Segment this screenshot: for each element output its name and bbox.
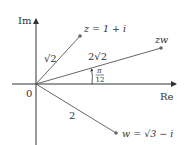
w-label: w = √3 − i bbox=[122, 128, 173, 139]
real-axis-label: Re bbox=[160, 91, 174, 102]
zw-modulus-label: 2√2 bbox=[88, 51, 107, 62]
origin-label: 0 bbox=[26, 88, 32, 99]
angle-denominator: 12 bbox=[96, 76, 105, 84]
zw-label: zw bbox=[154, 34, 168, 45]
angle-numerator: π bbox=[96, 67, 102, 75]
angle-arc-icon bbox=[92, 69, 93, 84]
point-z bbox=[78, 34, 82, 38]
w-modulus-label: 2 bbox=[69, 110, 75, 121]
point-zw bbox=[159, 46, 163, 50]
z-modulus-label: √2 bbox=[44, 53, 57, 64]
complex-plane-diagram: Im Re 0 z = 1 + i zw w = √3 − i √2 2√2 2… bbox=[0, 0, 185, 145]
point-w bbox=[114, 131, 118, 135]
ray-w bbox=[36, 84, 116, 133]
imaginary-axis-label: Im bbox=[18, 15, 32, 26]
ray-z bbox=[36, 36, 80, 84]
z-label: z = 1 + i bbox=[83, 23, 126, 34]
